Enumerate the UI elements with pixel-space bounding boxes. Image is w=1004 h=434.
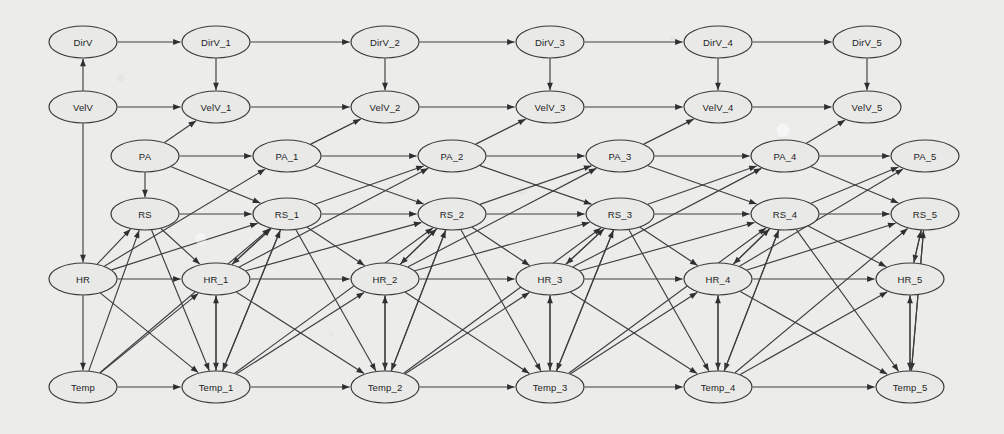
node-hr-3[interactable]: HR_3 xyxy=(516,263,584,295)
node-pa[interactable]: PA xyxy=(111,140,179,172)
node-rs-3[interactable]: RS_3 xyxy=(586,198,654,230)
edge-HR_3-to-HR_4 xyxy=(585,276,683,282)
node-rs-1[interactable]: RS_1 xyxy=(253,198,321,230)
node-temp-4[interactable]: Temp_4 xyxy=(684,371,752,403)
network-graph[interactable]: DirVVelVPARSHRTempDirV_1VelV_1PA_1RS_1HR… xyxy=(0,0,1004,434)
edge-Temp_4-to-HR_4 xyxy=(715,296,721,371)
node-hr-2[interactable]: HR_2 xyxy=(351,263,419,295)
node-temp-5[interactable]: Temp_5 xyxy=(876,371,944,403)
node-label: VelV_3 xyxy=(534,102,565,113)
node-temp[interactable]: Temp xyxy=(49,371,117,403)
edge-VelV-to-DirV xyxy=(80,59,86,91)
node-dirv-5[interactable]: DirV_5 xyxy=(833,26,901,58)
node-label: Temp_2 xyxy=(368,382,403,393)
node-label: RS_4 xyxy=(773,209,797,220)
edge-DirV_3-to-VelV_3 xyxy=(547,58,553,90)
edge-VelV-to-VelV_1 xyxy=(118,104,181,110)
edge-Temp_3-to-RS_3 xyxy=(556,230,613,371)
node-label: PA_2 xyxy=(440,151,463,162)
node-label: HR_3 xyxy=(538,274,563,285)
edge-Temp-to-RS xyxy=(89,230,140,370)
edge-PA_4-to-VelV_5 xyxy=(806,120,845,143)
edge-RS_3-to-RS_4 xyxy=(655,211,750,217)
edge-PA_4-to-PA_5 xyxy=(820,153,890,159)
node-temp-3[interactable]: Temp_3 xyxy=(516,371,584,403)
edge-VelV_1-to-VelV_2 xyxy=(251,104,350,110)
edge-RS-to-Temp_1 xyxy=(152,230,210,371)
node-label: PA xyxy=(139,151,152,162)
node-velv-2[interactable]: VelV_2 xyxy=(351,91,419,123)
node-label: VelV_1 xyxy=(200,102,231,113)
node-temp-1[interactable]: Temp_1 xyxy=(182,371,250,403)
edge-RS_4-to-Temp_5 xyxy=(796,229,898,371)
edge-PA_2-to-VelV_3 xyxy=(476,119,526,144)
node-label: PA_4 xyxy=(773,151,796,162)
edge-PA-to-VelV_1 xyxy=(165,121,197,143)
edge-Temp-to-Temp_1 xyxy=(118,384,181,390)
node-label: HR_1 xyxy=(204,274,229,285)
edge-VelV_3-to-VelV_4 xyxy=(585,104,683,110)
node-dirv-4[interactable]: DirV_4 xyxy=(684,26,752,58)
node-hr-5[interactable]: HR_5 xyxy=(876,263,944,295)
node-velv[interactable]: VelV xyxy=(49,91,117,123)
node-label: DirV xyxy=(73,37,93,48)
node-velv-3[interactable]: VelV_3 xyxy=(516,91,584,123)
node-label: Temp_5 xyxy=(893,382,928,393)
edge-RS_2-to-HR_3 xyxy=(472,227,529,265)
edge-HR_3-to-RS_3 xyxy=(566,229,604,265)
edge-RS_3-to-Temp_4 xyxy=(629,230,709,371)
node-dirv-2[interactable]: DirV_2 xyxy=(351,26,419,58)
node-label: VelV_2 xyxy=(369,102,400,113)
edge-PA-to-PA_1 xyxy=(180,153,252,159)
edge-Temp_3-to-Temp_4 xyxy=(585,384,683,390)
edge-HR-to-RS xyxy=(97,229,130,264)
edge-HR_1-to-HR_2 xyxy=(251,276,350,282)
node-hr-4[interactable]: HR_4 xyxy=(684,263,752,295)
node-pa-5[interactable]: PA_5 xyxy=(891,140,959,172)
node-hr[interactable]: HR xyxy=(49,263,117,295)
node-label: Temp_3 xyxy=(533,382,568,393)
edge-PA_1-to-PA_2 xyxy=(322,153,417,159)
edge-HR_2-to-HR_3 xyxy=(420,276,515,282)
edge-DirV-to-DirV_1 xyxy=(118,39,181,45)
node-dirv[interactable]: DirV xyxy=(49,26,117,58)
edge-DirV_2-to-DirV_3 xyxy=(420,39,515,45)
node-rs-2[interactable]: RS_2 xyxy=(418,198,486,230)
edge-Temp_2-to-Temp_3 xyxy=(420,384,515,390)
node-label: VelV_5 xyxy=(851,102,882,113)
node-pa-1[interactable]: PA_1 xyxy=(253,140,321,172)
edge-RS_2-to-RS_3 xyxy=(487,211,585,217)
node-label: DirV_2 xyxy=(370,37,400,48)
node-pa-3[interactable]: PA_3 xyxy=(586,140,654,172)
edge-Temp_5-to-RS_5 xyxy=(911,231,925,371)
edge-PA-to-RS_1 xyxy=(171,167,260,203)
node-hr-1[interactable]: HR_1 xyxy=(182,263,250,295)
node-velv-4[interactable]: VelV_4 xyxy=(684,91,752,123)
node-dirv-1[interactable]: DirV_1 xyxy=(182,26,250,58)
node-rs-5[interactable]: RS_5 xyxy=(891,198,959,230)
edge-RS_1-to-Temp_2 xyxy=(296,230,376,371)
node-label: Temp_1 xyxy=(199,382,234,393)
edge-PA_2-to-PA_3 xyxy=(487,153,585,159)
node-dirv-3[interactable]: DirV_3 xyxy=(516,26,584,58)
node-rs[interactable]: RS xyxy=(111,198,179,230)
edge-Temp_4-to-RS_4 xyxy=(724,230,778,371)
node-pa-2[interactable]: PA_2 xyxy=(418,140,486,172)
node-velv-1[interactable]: VelV_1 xyxy=(182,91,250,123)
edge-RS-to-HR_1 xyxy=(161,229,200,265)
node-pa-4[interactable]: PA_4 xyxy=(751,140,819,172)
edge-VelV_4-to-VelV_5 xyxy=(753,104,832,110)
node-velv-5[interactable]: VelV_5 xyxy=(833,91,901,123)
edge-Temp_1-to-RS_2 xyxy=(235,228,433,373)
edge-Temp_1-to-RS_1 xyxy=(223,230,281,371)
node-rs-4[interactable]: RS_4 xyxy=(751,198,819,230)
edge-VelV-to-HR xyxy=(80,123,86,262)
edge-Temp_2-to-RS_3 xyxy=(404,228,601,373)
node-label: HR_2 xyxy=(373,274,398,285)
node-label: RS_3 xyxy=(608,209,632,220)
node-label: RS_2 xyxy=(440,209,464,220)
node-label: HR xyxy=(76,274,90,285)
node-label: DirV_1 xyxy=(201,37,231,48)
node-temp-2[interactable]: Temp_2 xyxy=(351,371,419,403)
node-label: HR_4 xyxy=(706,274,731,285)
